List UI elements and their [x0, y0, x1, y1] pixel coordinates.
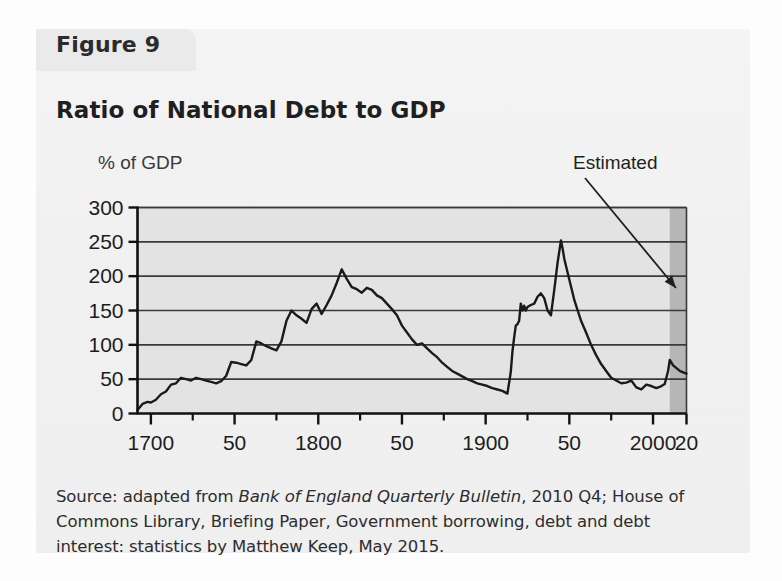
- y-tick-label-150: 150: [88, 299, 123, 322]
- estimated-annotation-label: Estimated: [573, 152, 657, 174]
- x-tick-label-1950: 50: [558, 431, 581, 454]
- y-tick-label-0: 0: [112, 402, 124, 425]
- figure-page: Figure 9 Ratio of National Debt to GDP %…: [0, 0, 782, 581]
- y-tick-label-200: 200: [88, 264, 123, 287]
- x-tick-label-1850: 50: [390, 431, 413, 454]
- y-tick-label-50: 50: [100, 367, 123, 390]
- source-prefix: Source: adapted from: [56, 487, 239, 506]
- x-tick-label-2000: 2000: [630, 431, 677, 454]
- x-tick-label-1750: 50: [223, 431, 246, 454]
- y-tick-label-300: 300: [88, 196, 123, 219]
- x-tick-label-2020: 20: [675, 431, 698, 454]
- x-tick-label-1900: 1900: [462, 431, 509, 454]
- source-note: Source: adapted from Bank of England Qua…: [56, 484, 704, 559]
- y-tick-label-100: 100: [88, 333, 123, 356]
- x-tick-label-1800: 1800: [295, 431, 342, 454]
- x-tick-label-1700: 1700: [128, 431, 175, 454]
- y-tick-label-250: 250: [88, 230, 123, 253]
- source-italic-title: Bank of England Quarterly Bulletin: [239, 487, 522, 506]
